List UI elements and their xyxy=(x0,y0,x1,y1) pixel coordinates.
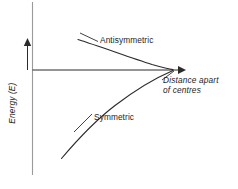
antisymmetric-curve-label: Antisymmetric xyxy=(100,36,153,44)
x-axis-label-line-1: Distance apart xyxy=(163,75,219,85)
antisymmetric-leader-line xyxy=(80,33,98,42)
x-axis-label: Distance apart of centres xyxy=(163,75,235,96)
energy-vs-distance-diagram: Antisymmetric Symmetric Distance apart o… xyxy=(0,0,238,189)
y-axis-label: Energy (E) xyxy=(8,70,16,136)
y-axis-arrowhead-icon xyxy=(24,38,31,46)
x-axis-arrowhead-icon xyxy=(178,66,186,74)
symmetric-leader-line xyxy=(74,114,92,132)
symmetric-curve-label: Symmetric xyxy=(94,113,134,121)
x-axis-label-line-2: of centres xyxy=(163,85,201,95)
